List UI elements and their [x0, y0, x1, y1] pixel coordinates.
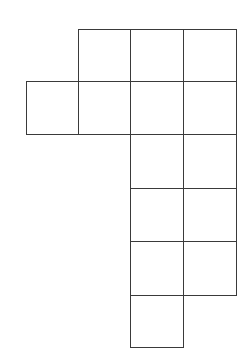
grid-cell [78, 29, 131, 82]
grid-cell [130, 188, 184, 242]
grid-cell [78, 81, 131, 135]
grid-cell [130, 295, 184, 348]
grid-cell [183, 29, 237, 82]
grid-cell [26, 81, 79, 135]
grid-cell [183, 81, 237, 135]
grid-cell [130, 241, 184, 296]
grid-cell [130, 81, 184, 135]
grid-cell [130, 29, 184, 82]
grid-cell [183, 134, 237, 189]
square-grid-diagram [0, 0, 248, 359]
grid-cell [130, 134, 184, 189]
grid-cell [183, 188, 237, 242]
grid-cell [183, 241, 237, 296]
